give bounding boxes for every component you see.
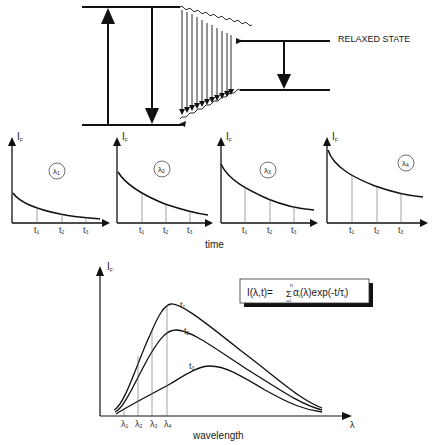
relaxed-state-label: RELAXED STATE — [338, 34, 410, 44]
svg-text:t1: t1 — [242, 225, 248, 235]
svg-text:t1: t1 — [349, 225, 355, 235]
time-axis-label: time — [205, 239, 224, 250]
svg-text:λ3: λ3 — [264, 166, 271, 175]
wavy-relaxation-upper — [180, 6, 252, 26]
fluorescence-diagram: RELAXED STATE IF t1 t2 t3 λ1 IF t1 t2 t3… — [0, 0, 434, 445]
decay-equation-box: I(λ,t)= n Σ i=1 αi(λ)exp(-t/τi) — [240, 279, 373, 307]
svg-text:t3: t3 — [398, 225, 404, 235]
decay-plot-lambda-2: IF t1 t2 t3 λ2 — [113, 131, 213, 235]
svg-text:λ3: λ3 — [150, 419, 158, 429]
svg-text:t2: t2 — [59, 225, 65, 235]
svg-text:λ1: λ1 — [121, 419, 129, 429]
emission-arrow — [145, 7, 159, 124]
decay-plot-lambda-3: IF t1 t2 t3 λ3 — [217, 131, 318, 235]
energy-level-diagram: RELAXED STATE — [82, 6, 410, 127]
x-axis-label: wavelength — [192, 430, 244, 441]
svg-text:λ4: λ4 — [164, 419, 172, 429]
svg-text:i=1: i=1 — [286, 298, 292, 303]
svg-text:t3: t3 — [291, 225, 297, 235]
svg-text:IF: IF — [332, 131, 338, 143]
svg-text:λ2: λ2 — [135, 419, 143, 429]
svg-text:t2: t2 — [163, 225, 169, 235]
decay-curve — [118, 172, 208, 215]
x-axis-symbol: λ — [350, 420, 355, 430]
svg-text:t3: t3 — [187, 225, 193, 235]
svg-text:λ4: λ4 — [402, 159, 409, 168]
absorption-arrow — [101, 8, 115, 125]
svg-text:t2: t2 — [267, 225, 273, 235]
svg-text:IF: IF — [226, 131, 232, 143]
svg-text:I(λ,t)=: I(λ,t)= — [247, 287, 273, 298]
decay-plot-lambda-1: IF t1 t2 t3 λ1 — [8, 131, 110, 235]
svg-text:λ2: λ2 — [158, 165, 165, 174]
y-axis-label: IF — [107, 261, 113, 273]
decay-plot-lambda-4: IF t1 t2 t3 λ4 — [323, 131, 428, 235]
svg-text:t2: t2 — [374, 225, 380, 235]
svg-text:t1: t1 — [180, 300, 186, 310]
decay-curve — [13, 193, 100, 219]
relaxed-emission-arrow — [277, 41, 291, 89]
y-axis-label: IF — [17, 131, 23, 143]
decay-curve — [328, 150, 423, 197]
svg-text:IF: IF — [122, 131, 128, 143]
svg-text:t2: t2 — [184, 326, 190, 336]
svg-text:t1: t1 — [139, 225, 145, 235]
svg-text:t3: t3 — [83, 225, 89, 235]
spectrum-curve-t1 — [114, 304, 322, 410]
svg-text:t1: t1 — [34, 225, 40, 235]
spectrum-plot: IF λ t1 t2 t3 λ1 λ2 λ3 λ4 wavelength I(λ… — [96, 261, 373, 441]
svg-text:αi(λ)exp(-t/τi): αi(λ)exp(-t/τi) — [293, 287, 348, 299]
svg-text:t3: t3 — [189, 361, 195, 371]
svg-text:λ1: λ1 — [53, 167, 60, 176]
